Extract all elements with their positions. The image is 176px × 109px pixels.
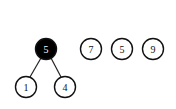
edge-root-right [51, 58, 61, 77]
tree-root-node: 5 [36, 39, 57, 60]
node-label: 5 [44, 44, 49, 55]
tree-child-node-left: 1 [16, 77, 37, 98]
node-label: 5 [120, 44, 125, 55]
node-label: 1 [24, 82, 29, 93]
diagram: 5 1 4 7 5 9 [0, 0, 176, 109]
node-label: 4 [63, 82, 68, 93]
node-label: 7 [89, 44, 94, 55]
tree-child-node-right: 4 [55, 77, 76, 98]
node-label: 9 [151, 44, 156, 55]
singleton-node-3: 9 [143, 39, 164, 60]
edge-root-left [30, 58, 41, 77]
singleton-node-1: 7 [81, 39, 102, 60]
singleton-node-2: 5 [112, 39, 133, 60]
